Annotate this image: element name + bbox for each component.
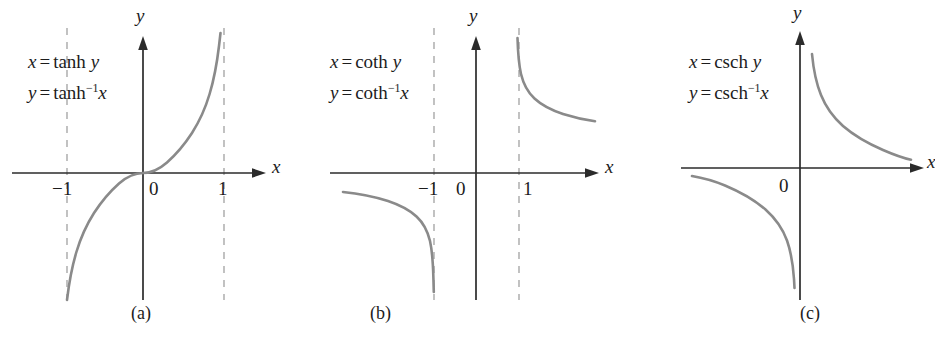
panel-b-y-axis-label: y bbox=[469, 5, 477, 27]
panel-a-equation-2: y=tanh−1x bbox=[28, 75, 107, 102]
panel-b-tick-neg1: −1 bbox=[418, 178, 438, 200]
panel-b-x-axis-label: x bbox=[605, 156, 613, 178]
panel-a-tick-zero: 0 bbox=[149, 178, 159, 200]
x-axis-arrowhead bbox=[910, 163, 924, 173]
panel-c-equations: x=csch y y=csch−1x bbox=[689, 48, 769, 102]
panel-c-caption: (c) bbox=[800, 303, 820, 324]
panel-a: x=tanh y y=tanh−1x −1 0 1 x y (a) bbox=[0, 0, 312, 339]
x-axis-arrowhead bbox=[252, 168, 266, 178]
panel-b-equations: x=coth y y=coth−1x bbox=[330, 48, 409, 102]
panel-c-x-axis-label: x bbox=[927, 151, 935, 173]
curve-arccsch-positive bbox=[812, 54, 911, 160]
curve-arccoth-right bbox=[518, 38, 596, 121]
panel-a-x-axis-label: x bbox=[272, 156, 280, 178]
x-axis-arrowhead bbox=[585, 168, 599, 178]
panel-c-plot bbox=[623, 0, 935, 339]
panel-c-y-axis-label: y bbox=[793, 2, 801, 24]
panel-b-equation-1: x=coth y bbox=[330, 48, 409, 75]
panel-c-equation-1: x=csch y bbox=[689, 48, 769, 75]
panel-a-tick-pos1: 1 bbox=[218, 178, 228, 200]
panel-a-equations: x=tanh y y=tanh−1x bbox=[28, 48, 107, 102]
panel-a-tick-neg1: −1 bbox=[52, 178, 72, 200]
panel-b-tick-zero: 0 bbox=[456, 178, 466, 200]
panel-b: x=coth y y=coth−1x −1 0 1 x y (b) bbox=[312, 0, 624, 339]
panel-a-caption: (a) bbox=[131, 303, 151, 324]
panel-a-equation-1: x=tanh y bbox=[28, 48, 107, 75]
panel-c-tick-zero: 0 bbox=[779, 175, 789, 197]
inverse-hyperbolic-functions-figure: x=tanh y y=tanh−1x −1 0 1 x y (a) bbox=[0, 0, 935, 339]
y-axis-arrowhead bbox=[138, 36, 148, 50]
panel-b-tick-pos1: 1 bbox=[523, 178, 533, 200]
panel-b-caption: (b) bbox=[370, 303, 391, 324]
y-axis-arrowhead bbox=[471, 36, 481, 50]
panel-c: x=csch y y=csch−1x 0 x y (c) bbox=[623, 0, 935, 339]
panel-a-y-axis-label: y bbox=[136, 5, 144, 27]
curve-arccoth-left bbox=[343, 192, 434, 292]
panel-c-equation-2: y=csch−1x bbox=[689, 75, 769, 102]
panel-b-equation-2: y=coth−1x bbox=[330, 75, 409, 102]
y-axis-arrowhead bbox=[795, 31, 805, 45]
